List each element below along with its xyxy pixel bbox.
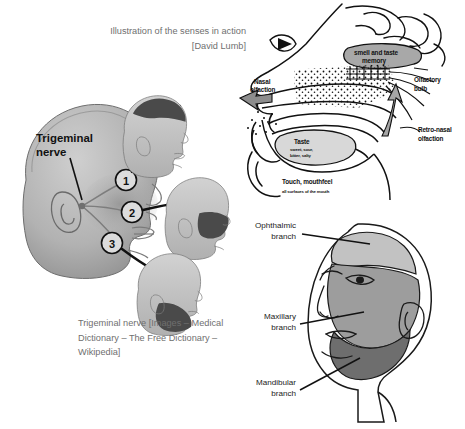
marker-2: 2 bbox=[122, 202, 143, 223]
trigeminal-nerve-diagram: Trigeminal nerve 1 2 3 bbox=[8, 88, 248, 303]
figure-root: Illustration of the senses in action [Da… bbox=[0, 0, 465, 429]
label-olfactory-bulb-line2: bulb bbox=[414, 85, 427, 92]
label-smell-taste-memory: smell and taste bbox=[354, 49, 399, 56]
marker-3-label: 3 bbox=[109, 238, 115, 250]
label-touch-mouthfeel: Touch, mouthfeel bbox=[282, 178, 333, 186]
marker-3: 3 bbox=[102, 233, 123, 254]
small-head-maxillary bbox=[165, 178, 230, 260]
caption-trigeminal: Trigeminal nerve [Images – Medical Dicti… bbox=[78, 316, 238, 360]
eye-shape bbox=[270, 35, 296, 51]
senses-diagram-svg: smell and taste memory bbox=[238, 4, 465, 208]
trigeminal-title-line1: Trigeminal bbox=[36, 132, 93, 144]
label-nasal-olfaction: Nasal bbox=[254, 78, 271, 85]
trigeminal-diagram-svg: Trigeminal nerve 1 2 3 bbox=[8, 88, 248, 303]
nerve-ganglion bbox=[79, 203, 85, 209]
label-smell-taste-memory-line2: memory bbox=[362, 57, 387, 65]
label-ophthalmic-branch-line2: branch bbox=[271, 232, 296, 241]
label-maxillary-branch-line2: branch bbox=[271, 323, 296, 332]
label-retro-nasal-olfaction-line2: olfaction bbox=[418, 135, 444, 142]
label-mandibular-branch-line2: branch bbox=[271, 389, 296, 398]
senses-diagram: smell and taste memory bbox=[238, 4, 465, 208]
label-taste: Taste bbox=[294, 138, 310, 145]
throat-outline bbox=[374, 154, 390, 200]
small-head-ophthalmic bbox=[123, 96, 188, 178]
label-ophthalmic-branch-line1: Ophthalmic bbox=[255, 221, 296, 230]
branches-diagram-svg: Ophthalmic branch Maxillary branch Mandi… bbox=[238, 212, 465, 428]
label-taste-qualities-line2: bitter, salty bbox=[290, 153, 311, 158]
label-maxillary-branch-line1: Maxillary bbox=[264, 312, 297, 321]
retro-nasal-leader bbox=[400, 127, 420, 132]
olfactory-bulb-leader bbox=[414, 68, 428, 70]
label-taste-qualities: sweet, sour, bbox=[290, 147, 313, 152]
label-olfactory-bulb: Olfactory bbox=[414, 76, 441, 84]
tongue-shape bbox=[275, 130, 356, 165]
label-mandibular-branch-line1: Mandibular bbox=[256, 378, 296, 387]
label-touch-surfaces: all surfaces of the mouth bbox=[282, 189, 330, 194]
trigeminal-title-line2: nerve bbox=[36, 146, 66, 158]
label-retro-nasal-olfaction: Retro-nasal bbox=[418, 126, 452, 133]
label-nasal-olfaction-line2: olfaction bbox=[250, 86, 276, 93]
marker-2-label: 2 bbox=[129, 207, 135, 219]
marker-1-label: 1 bbox=[123, 175, 129, 187]
trigeminal-branches-diagram: Ophthalmic branch Maxillary branch Mandi… bbox=[238, 212, 465, 428]
caption-senses: Illustration of the senses in action [Da… bbox=[96, 24, 246, 53]
